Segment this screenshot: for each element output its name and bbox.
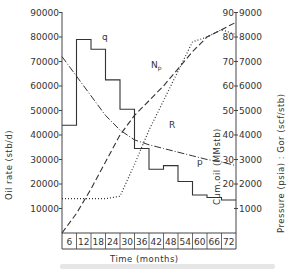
y-right-inner-title: Cum.oil (MMstb) bbox=[212, 128, 222, 205]
y-left-tick-label: 40000 bbox=[30, 130, 59, 140]
y-right-inner-tick-label: 80 bbox=[223, 32, 235, 42]
x-tick-label: 6 bbox=[66, 237, 72, 247]
y-right-inner-tick-label: 70 bbox=[223, 57, 235, 67]
x-tick-label: 18 bbox=[93, 237, 105, 247]
y-right-inner-tick-label: 50 bbox=[223, 106, 235, 116]
y-left-tick-label: 80000 bbox=[30, 32, 59, 42]
y-right-outer-tick-label: 2000 bbox=[239, 179, 262, 189]
x-tick-label: 66 bbox=[209, 237, 221, 247]
x-axis-title: Time (months) bbox=[109, 254, 179, 264]
y-left-tick-label: 70000 bbox=[30, 57, 59, 67]
x-tick-label: 30 bbox=[122, 237, 134, 247]
series-label-p: p bbox=[197, 157, 203, 167]
y-right-outer-tick-label: 1000 bbox=[239, 204, 262, 214]
y-left-tick-label: 90000 bbox=[30, 8, 59, 18]
oil-rate-step-series bbox=[62, 39, 236, 199]
y-right-outer-tick-label: 6000 bbox=[239, 81, 262, 91]
x-tick-label: 24 bbox=[107, 237, 119, 247]
y-left-tick-label: 20000 bbox=[30, 179, 59, 189]
y-left-tick-label: 30000 bbox=[30, 155, 59, 165]
series-label-np: Np bbox=[151, 60, 162, 72]
y-right-outer-tick-label: 3000 bbox=[239, 155, 262, 165]
x-tick-label: 36 bbox=[136, 237, 148, 247]
x-tick-label: 48 bbox=[165, 237, 177, 247]
y-left-tick-label: 50000 bbox=[30, 106, 59, 116]
y-right-ticks: 1000200030004000500060007000800090002030… bbox=[223, 8, 263, 214]
y-right-outer-tick-label: 4000 bbox=[239, 130, 262, 140]
series-label-q: q bbox=[102, 32, 108, 42]
figure-caption bbox=[60, 264, 275, 269]
y-right-inner-tick-label: 60 bbox=[223, 81, 235, 91]
y-right-outer-tick-label: 5000 bbox=[239, 106, 262, 116]
x-tick-label: 54 bbox=[180, 237, 192, 247]
y-right-inner-tick-label: 40 bbox=[223, 130, 235, 140]
cum-oil-series bbox=[62, 22, 236, 233]
y-right-outer-title: Pressure (psia) : Gor (scf/stb) bbox=[276, 93, 286, 233]
y-right-outer-tick-label: 9000 bbox=[239, 8, 262, 18]
series-label-r: R bbox=[169, 120, 175, 130]
x-tick-label: 72 bbox=[223, 237, 234, 247]
reservoir-performance-chart: 61218243036424854606672 1000020000300004… bbox=[0, 0, 289, 275]
y-left-ticks: 1000020000300004000050000600007000080000… bbox=[30, 8, 62, 214]
y-right-outer-tick-label: 7000 bbox=[239, 57, 262, 67]
x-tick-label: 42 bbox=[151, 237, 162, 247]
x-tick-label: 12 bbox=[78, 237, 89, 247]
y-right-inner-tick-label: 20 bbox=[223, 179, 235, 189]
y-left-tick-label: 10000 bbox=[30, 204, 59, 214]
gor-series bbox=[62, 30, 236, 199]
y-right-inner-tick-label: 90 bbox=[223, 8, 235, 18]
x-axis-cells: 61218243036424854606672 bbox=[66, 233, 234, 249]
y-right-outer-tick-label: 8000 bbox=[239, 32, 262, 42]
y-left-title: Oil rate (stb/d) bbox=[4, 130, 14, 200]
x-tick-label: 60 bbox=[194, 237, 206, 247]
y-left-tick-label: 60000 bbox=[30, 81, 59, 91]
